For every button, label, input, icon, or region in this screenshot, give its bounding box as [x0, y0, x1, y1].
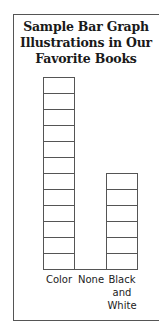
bar-unit-divider	[44, 237, 74, 238]
x-label-bw-line-3: White	[103, 299, 141, 312]
bar-unit-divider	[44, 173, 74, 174]
bar-unit-divider	[44, 93, 74, 94]
bar-unit-divider	[44, 189, 74, 190]
chart-title: Sample Bar Graph Illustrations in Our Fa…	[13, 19, 159, 67]
x-axis-baseline	[43, 269, 138, 270]
bar-unit-divider	[107, 205, 137, 206]
bar-unit-divider	[107, 189, 137, 190]
chart-title-line-1: Sample Bar Graph	[13, 19, 159, 35]
bar-black-and-white	[106, 173, 138, 270]
bar-unit-divider	[44, 253, 74, 254]
x-label-color-text: Color	[46, 274, 72, 285]
bar-unit-divider	[44, 125, 74, 126]
bar-unit-divider	[44, 157, 74, 158]
x-label-black-and-white: Black and White	[103, 273, 141, 312]
bar-unit-divider	[44, 141, 74, 142]
bar-color	[43, 77, 75, 270]
bar-unit-divider	[107, 237, 137, 238]
bar-unit-divider	[107, 221, 137, 222]
chart-title-line-3: Favorite Books	[13, 51, 159, 67]
bar-unit-divider	[44, 109, 74, 110]
bar-unit-divider	[107, 253, 137, 254]
bar-unit-divider	[44, 205, 74, 206]
bar-unit-divider	[44, 221, 74, 222]
x-label-bw-line-2: and	[103, 286, 141, 299]
chart-title-line-2: Illustrations in Our	[13, 35, 159, 51]
x-label-none-text: None	[78, 274, 104, 285]
x-label-bw-line-1: Black	[103, 273, 141, 286]
